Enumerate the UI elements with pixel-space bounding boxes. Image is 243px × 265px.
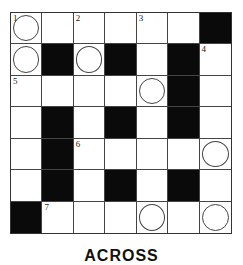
grid-cell[interactable]: 2 — [74, 13, 105, 44]
black-square — [42, 107, 73, 138]
grid-cell[interactable] — [105, 202, 136, 233]
grid-cell[interactable] — [74, 202, 105, 233]
clue-number: 3 — [139, 13, 144, 23]
grid-cell[interactable] — [168, 202, 199, 233]
circle-marker-icon — [76, 46, 102, 72]
clue-number: 2 — [76, 13, 81, 23]
grid-cell[interactable] — [11, 107, 42, 138]
black-square — [168, 76, 199, 107]
clue-number: 7 — [44, 202, 49, 212]
grid-cell[interactable] — [105, 139, 136, 170]
black-square — [105, 107, 136, 138]
across-heading: ACROSS — [0, 247, 243, 265]
grid-cell[interactable] — [74, 170, 105, 201]
grid-cell[interactable] — [74, 107, 105, 138]
grid-cell[interactable] — [200, 202, 231, 233]
circle-marker-icon — [202, 141, 229, 167]
black-square — [200, 13, 231, 44]
grid-cell[interactable] — [42, 76, 73, 107]
black-square — [168, 44, 199, 75]
black-square — [42, 170, 73, 201]
circle-marker-icon — [202, 204, 229, 231]
black-square — [42, 139, 73, 170]
grid-cell[interactable] — [105, 13, 136, 44]
grid-cell[interactable]: 3 — [137, 13, 168, 44]
grid-cell[interactable] — [137, 139, 168, 170]
black-square — [168, 107, 199, 138]
black-square — [105, 44, 136, 75]
black-square — [42, 44, 73, 75]
grid-cell[interactable] — [137, 76, 168, 107]
grid-cell[interactable] — [200, 170, 231, 201]
grid-cell[interactable] — [137, 44, 168, 75]
grid-cell[interactable]: 4 — [200, 44, 231, 75]
grid-cell[interactable]: 6 — [74, 139, 105, 170]
circle-marker-icon — [13, 46, 39, 72]
black-square — [105, 170, 136, 201]
grid-cell[interactable] — [11, 44, 42, 75]
grid-cell[interactable] — [11, 139, 42, 170]
grid-cell[interactable] — [11, 170, 42, 201]
grid-cell[interactable] — [74, 44, 105, 75]
grid-cell[interactable]: 7 — [42, 202, 73, 233]
clue-number: 4 — [202, 44, 207, 54]
crossword-grid: 1234567 — [10, 12, 232, 234]
circle-marker-icon — [139, 78, 165, 104]
grid-cell[interactable] — [137, 170, 168, 201]
clue-number: 6 — [76, 139, 81, 149]
grid-cell[interactable]: 1 — [11, 13, 42, 44]
grid-cell[interactable] — [200, 107, 231, 138]
clue-number: 1 — [13, 13, 18, 23]
grid-cell[interactable] — [200, 76, 231, 107]
grid-cell[interactable] — [137, 107, 168, 138]
clue-number: 5 — [13, 76, 18, 86]
grid-cell[interactable] — [42, 13, 73, 44]
grid-cell[interactable] — [200, 139, 231, 170]
circle-marker-icon — [139, 204, 165, 231]
grid-cell[interactable] — [74, 76, 105, 107]
black-square — [11, 202, 42, 233]
grid-cell[interactable]: 5 — [11, 76, 42, 107]
black-square — [168, 170, 199, 201]
grid-cell[interactable] — [168, 139, 199, 170]
grid-cell[interactable] — [137, 202, 168, 233]
grid-cell[interactable] — [105, 76, 136, 107]
grid-cell[interactable] — [168, 13, 199, 44]
